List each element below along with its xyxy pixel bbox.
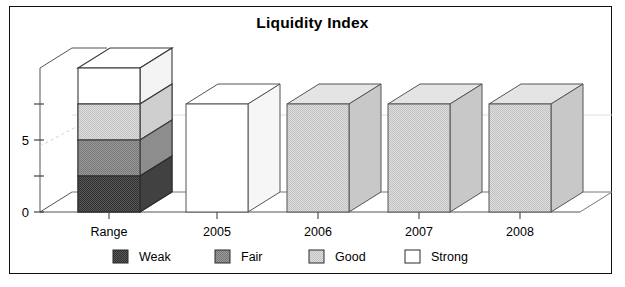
chart-plot-area: 0 5 [0,0,625,287]
legend-label-good: Good [335,250,366,264]
x-label-2008: 2008 [506,225,534,239]
x-label-2006: 2006 [304,225,332,239]
x-label-range: Range [91,225,128,239]
legend-swatch-good [309,250,324,263]
legend-item-strong[interactable]: Strong [405,250,468,264]
legend-label-weak: Weak [139,250,171,264]
y-axis-ticks [34,104,44,212]
legend-item-weak[interactable]: Weak [113,250,171,264]
chart-legend: Weak Fair Good Strong [113,250,468,264]
legend-swatch-fair [215,250,230,263]
y-tick-label-0: 0 [22,205,29,220]
legend-swatch-strong [405,250,420,263]
bar-range-corrected[interactable] [78,48,172,212]
bar-2008[interactable] [489,84,583,212]
legend-item-fair[interactable]: Fair [215,250,263,264]
y-tick-label-5: 5 [22,133,29,148]
chart-container: Liquidity Index [0,0,625,287]
legend-item-good[interactable]: Good [309,250,366,264]
x-axis-ticks [109,212,520,219]
x-label-2005: 2005 [203,225,231,239]
x-label-2007: 2007 [405,225,433,239]
legend-label-strong: Strong [431,250,468,264]
legend-swatch-weak [113,250,128,263]
bar-2006[interactable] [287,84,381,212]
bar-2005[interactable] [186,84,280,212]
legend-label-fair: Fair [241,250,263,264]
bar-2007[interactable] [388,84,482,212]
